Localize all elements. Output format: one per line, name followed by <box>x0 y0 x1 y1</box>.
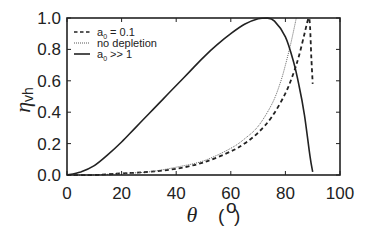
y-tick-label: 0.4 <box>37 103 61 122</box>
legend-label-a0-large: a0 >> 1 <box>97 48 132 62</box>
axis-ticks: 0204060801000.00.20.40.60.81.0 <box>37 9 354 203</box>
x-axis-title: θ ( o ) <box>187 196 241 227</box>
x-tick-label: 100 <box>326 184 354 203</box>
svg-text:θ: θ <box>187 202 198 227</box>
x-tick-label: 80 <box>276 184 295 203</box>
y-tick-label: 0.2 <box>37 135 61 154</box>
legend: a0 = 0.1 no depletion a0 >> 1 <box>74 26 157 62</box>
x-tick-label: 0 <box>62 184 71 203</box>
line-chart: 0204060801000.00.20.40.60.81.0 a0 = 0.1 … <box>0 0 368 235</box>
x-tick-label: 20 <box>112 184 131 203</box>
y-tick-label: 0.0 <box>37 166 61 185</box>
svg-text:): ) <box>234 205 240 226</box>
y-tick-label: 0.8 <box>37 40 61 59</box>
svg-text:ηvh: ηvh <box>10 87 36 113</box>
svg-text:(: ( <box>218 205 225 226</box>
y-tick-label: 1.0 <box>37 9 61 28</box>
y-axis-title: ηvh <box>10 87 36 113</box>
y-tick-label: 0.6 <box>37 72 61 91</box>
x-tick-label: 40 <box>167 184 186 203</box>
